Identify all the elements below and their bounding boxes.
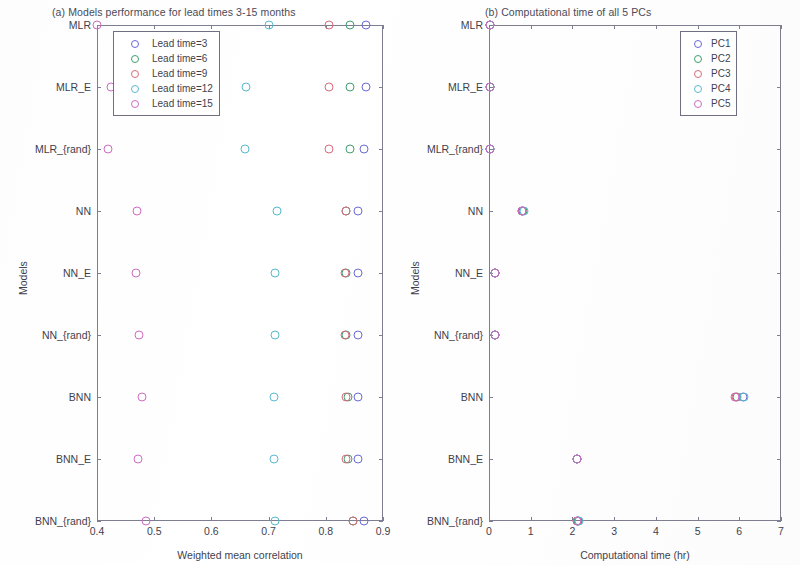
- y-tick-label-bnn: BNN: [400, 391, 483, 403]
- data-point-marker: [273, 207, 282, 216]
- y-tick-label-mlr_e: MLR_E: [0, 81, 91, 93]
- legend-marker-cell: [685, 70, 711, 78]
- y-tick-mark: [379, 149, 383, 150]
- panel-b-computational-time: (b) Computational time of all 5 PCs Mode…: [400, 0, 800, 565]
- y-tick-mark: [777, 459, 781, 460]
- data-point-marker: [134, 455, 143, 464]
- y-tick-label-mlr_rand: MLR_{rand}: [0, 143, 91, 155]
- panel-a-legend: Lead time=3Lead time=6Lead time=9Lead ti…: [113, 31, 220, 116]
- data-point-marker: [349, 517, 358, 526]
- x-tick-label-5: 5: [695, 525, 701, 537]
- y-tick-mark: [97, 211, 101, 212]
- x-tick-mark: [154, 517, 155, 521]
- data-point-marker: [353, 207, 362, 216]
- x-tick-label-7: 7: [778, 525, 784, 537]
- data-point-marker: [353, 269, 362, 278]
- legend-row: Lead time=9: [118, 66, 213, 81]
- y-tick-label-nn_e: NN_E: [0, 267, 91, 279]
- data-point-marker: [341, 331, 350, 340]
- data-point-marker: [142, 517, 151, 526]
- data-point-marker: [359, 145, 368, 154]
- x-tick-mark: [269, 517, 270, 521]
- data-point-marker: [270, 455, 279, 464]
- y-tick-mark: [777, 521, 781, 522]
- legend-row: Lead time=15: [118, 96, 213, 111]
- legend-marker-icon: [694, 55, 702, 63]
- y-tick-label-bnn_e: BNN_E: [0, 453, 91, 465]
- data-point-marker: [270, 393, 279, 402]
- data-point-marker: [131, 269, 140, 278]
- data-point-marker: [241, 83, 250, 92]
- x-tick-mark: [739, 25, 740, 29]
- y-tick-mark: [777, 335, 781, 336]
- data-point-marker: [271, 331, 280, 340]
- panel-a-title: (a) Models performance for lead times 3-…: [52, 6, 296, 18]
- y-tick-mark: [777, 397, 781, 398]
- y-tick-label-nn_e: NN_E: [400, 267, 483, 279]
- data-point-marker: [271, 517, 280, 526]
- x-tick-label-2: 0.6: [204, 525, 219, 537]
- x-tick-label-1: 1: [528, 525, 534, 537]
- y-tick-mark: [379, 521, 383, 522]
- data-point-marker: [325, 21, 334, 30]
- y-tick-label-mlr_rand: MLR_{rand}: [400, 143, 483, 155]
- x-tick-label-0: 0: [486, 525, 492, 537]
- x-tick-label-3: 0.7: [261, 525, 276, 537]
- y-tick-label-mlr: MLR: [0, 19, 91, 31]
- legend-row: Lead time=12: [118, 81, 213, 96]
- y-tick-mark: [97, 397, 101, 398]
- legend-label: PC4: [711, 83, 730, 94]
- y-tick-label-nn_rand: NN_{rand}: [400, 329, 483, 341]
- legend-marker-icon: [694, 40, 702, 48]
- legend-label: Lead time=9: [152, 68, 207, 79]
- x-tick-mark: [211, 25, 212, 29]
- figure-container: (a) Models performance for lead times 3-…: [0, 0, 800, 565]
- data-point-marker: [518, 207, 527, 216]
- data-point-marker: [353, 331, 362, 340]
- legend-row: PC3: [685, 66, 730, 81]
- data-point-marker: [342, 393, 351, 402]
- data-point-marker: [485, 21, 494, 30]
- x-tick-mark: [383, 25, 384, 29]
- data-point-marker: [353, 455, 362, 464]
- panel-b-legend: PC1PC2PC3PC4PC5: [680, 31, 737, 116]
- y-tick-mark: [379, 459, 383, 460]
- legend-row: PC1: [685, 36, 730, 51]
- y-tick-mark: [97, 273, 101, 274]
- panel-a-models-performance: (a) Models performance for lead times 3-…: [0, 0, 400, 565]
- x-tick-mark: [781, 517, 782, 521]
- y-tick-label-mlr_e: MLR_E: [400, 81, 483, 93]
- y-tick-mark: [489, 397, 493, 398]
- y-tick-mark: [97, 87, 101, 88]
- data-point-marker: [264, 21, 273, 30]
- data-point-marker: [325, 83, 334, 92]
- x-tick-mark: [781, 25, 782, 29]
- y-tick-mark: [379, 211, 383, 212]
- legend-marker-icon: [131, 55, 139, 63]
- legend-label: PC1: [711, 38, 730, 49]
- y-tick-mark: [97, 149, 101, 150]
- x-tick-label-3: 3: [611, 525, 617, 537]
- data-point-marker: [133, 207, 142, 216]
- x-tick-mark: [572, 25, 573, 29]
- data-point-marker: [341, 269, 350, 278]
- legend-label: Lead time=15: [152, 98, 213, 109]
- data-point-marker: [359, 517, 368, 526]
- y-tick-label-bnn_rand: BNN_{rand}: [400, 515, 483, 527]
- y-tick-mark: [379, 25, 383, 26]
- legend-marker-cell: [685, 100, 711, 108]
- y-tick-mark: [777, 211, 781, 212]
- legend-label: PC2: [711, 53, 730, 64]
- y-tick-mark: [777, 25, 781, 26]
- legend-label: Lead time=6: [152, 53, 207, 64]
- legend-row: Lead time=6: [118, 51, 213, 66]
- y-tick-mark: [379, 273, 383, 274]
- data-point-marker: [353, 393, 362, 402]
- x-tick-label-5: 0.9: [376, 525, 391, 537]
- data-point-marker: [345, 83, 354, 92]
- data-point-marker: [271, 269, 280, 278]
- panel-b-title: (b) Computational time of all 5 PCs: [485, 6, 651, 18]
- x-tick-mark: [739, 517, 740, 521]
- legend-marker-icon: [694, 85, 702, 93]
- panel-b-x-axis-title: Computational time (hr): [580, 549, 690, 561]
